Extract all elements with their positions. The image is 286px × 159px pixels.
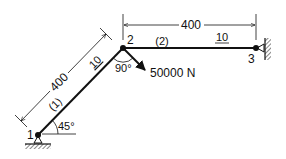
member-1 [38,48,123,135]
member-2-label: (2) [155,35,168,47]
angle-45-label: 45° [58,120,75,132]
prop-member-1-label: 10 [86,53,103,70]
node-2-label: 2 [127,33,134,47]
truss-diagram: 400 400 10 10 (1) (2) 1 2 3 45° 90° 5000… [0,0,286,159]
node-1-label: 1 [27,128,34,142]
dim-member-1-label: 400 [47,70,71,94]
force-label: 50000 N [150,66,195,80]
node-3-label: 3 [248,52,255,66]
angle-90-label: 90° [115,62,132,74]
prop-member-2-label: 10 [216,31,228,43]
pin-support-node-3 [257,38,271,60]
dim-member-2-label: 400 [181,18,201,32]
